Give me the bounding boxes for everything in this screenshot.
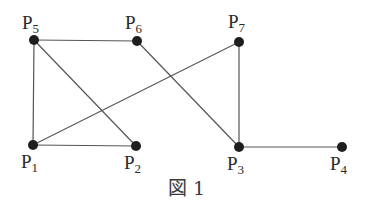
edge-p6-p3 bbox=[137, 41, 239, 147]
figure-caption: 図 1 bbox=[168, 177, 205, 199]
node-p1 bbox=[28, 140, 38, 150]
node-labels: P5 P6 P7 P1 P2 P3 P4 bbox=[21, 11, 348, 177]
graph-diagram: P5 P6 P7 P1 P2 P3 P4 図 1 bbox=[0, 0, 376, 208]
node-p3 bbox=[234, 142, 244, 152]
edge-p5-p6 bbox=[34, 40, 137, 41]
node-p4 bbox=[337, 142, 347, 152]
label-p4: P4 bbox=[330, 153, 348, 177]
label-p1: P1 bbox=[21, 151, 38, 175]
node-p7 bbox=[234, 37, 244, 47]
node-p5 bbox=[29, 35, 39, 45]
edges bbox=[33, 40, 342, 147]
edge-p5-p2 bbox=[34, 40, 136, 146]
label-p6: P6 bbox=[125, 12, 143, 36]
label-p5: P5 bbox=[22, 12, 39, 36]
label-p2: P2 bbox=[124, 152, 141, 176]
edge-p1-p7 bbox=[33, 42, 239, 145]
label-p7: P7 bbox=[228, 11, 246, 35]
node-p6 bbox=[132, 36, 142, 46]
edge-p1-p2 bbox=[33, 145, 136, 146]
node-p2 bbox=[131, 141, 141, 151]
label-p3: P3 bbox=[227, 153, 244, 177]
edge-p5-p1 bbox=[33, 40, 34, 145]
